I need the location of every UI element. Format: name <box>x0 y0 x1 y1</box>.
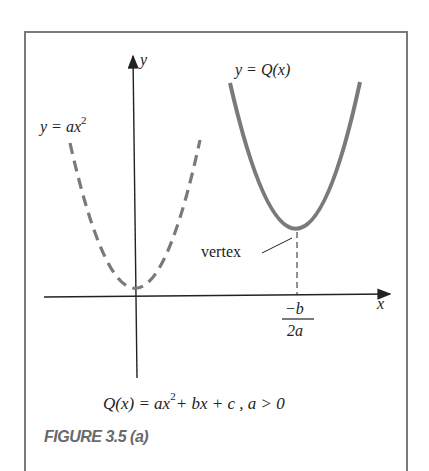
vertex-label: vertex <box>201 243 241 261</box>
y-axis <box>133 56 137 378</box>
x-axis <box>44 294 390 297</box>
y-axis-label: y <box>140 51 147 69</box>
vertex-x-numerator: −b <box>285 300 304 318</box>
figure-caption: FIGURE 3.5 (a) <box>44 428 148 446</box>
solid-parabola <box>230 82 360 229</box>
vertex-x-denominator: 2a <box>287 322 303 340</box>
solid-curve-label: y = Q(x) <box>235 61 290 79</box>
dashed-curve-label: y = ax2 <box>40 116 87 136</box>
vertex-pointer <box>262 238 292 253</box>
x-axis-label: x <box>377 295 384 313</box>
equation: Q(x) = ax2+ bx + c , a > 0 <box>103 392 285 414</box>
